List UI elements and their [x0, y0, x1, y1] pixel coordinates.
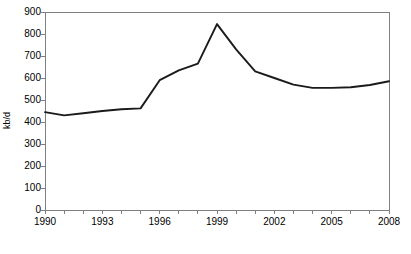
plot-area	[0, 0, 411, 254]
chart-container: kb/d 0100200300400500600700800900 199019…	[0, 0, 411, 254]
data-series-line	[45, 24, 389, 115]
